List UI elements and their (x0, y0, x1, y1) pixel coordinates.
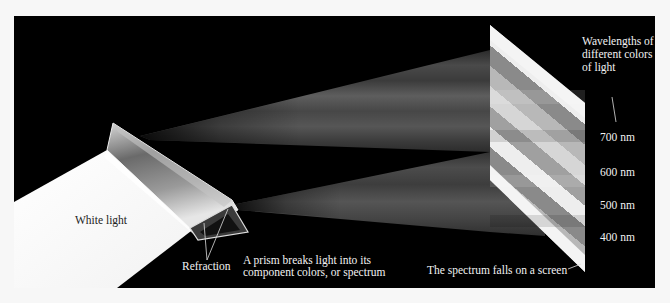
wavelengths-label-line3: of light (582, 61, 616, 74)
wavelengths-label-line2: different colors (582, 48, 652, 61)
wavelength-tick-700: 700 nm (600, 131, 635, 144)
wavelength-tick-400: 400 nm (600, 231, 635, 244)
wavelengths-label-line1: Wavelengths of (582, 35, 654, 48)
white-light-label: White light (75, 214, 127, 227)
screen-caption: The spectrum falls on a screen (427, 264, 567, 277)
refraction-label: Refraction (182, 260, 231, 273)
wavelength-tick-600: 600 nm (600, 166, 635, 179)
wavelength-tick-500: 500 nm (600, 199, 635, 212)
prism-spectrum-diagram: White light Refraction A prism breaks li… (0, 0, 670, 303)
prism-caption-line2: component colors, or spectrum (243, 266, 385, 279)
